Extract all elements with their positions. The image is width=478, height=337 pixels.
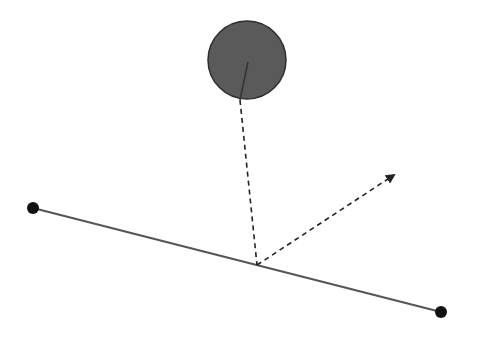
segment-start-point: [27, 202, 39, 214]
projection-dashed-line: [240, 100, 257, 265]
direction-arrow: [257, 175, 394, 265]
diagram-canvas: [0, 0, 478, 337]
line-segment: [33, 208, 441, 312]
circle-body: [208, 21, 286, 99]
segment-end-point: [435, 306, 447, 318]
